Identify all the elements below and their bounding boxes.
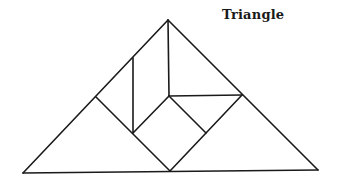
- edge-line: [169, 96, 206, 133]
- tangram-lines: [23, 20, 318, 173]
- edge-line: [169, 95, 242, 96]
- tangram-triangle-diagram: [0, 0, 338, 184]
- edge-line: [133, 96, 169, 133]
- edge-line: [168, 20, 169, 96]
